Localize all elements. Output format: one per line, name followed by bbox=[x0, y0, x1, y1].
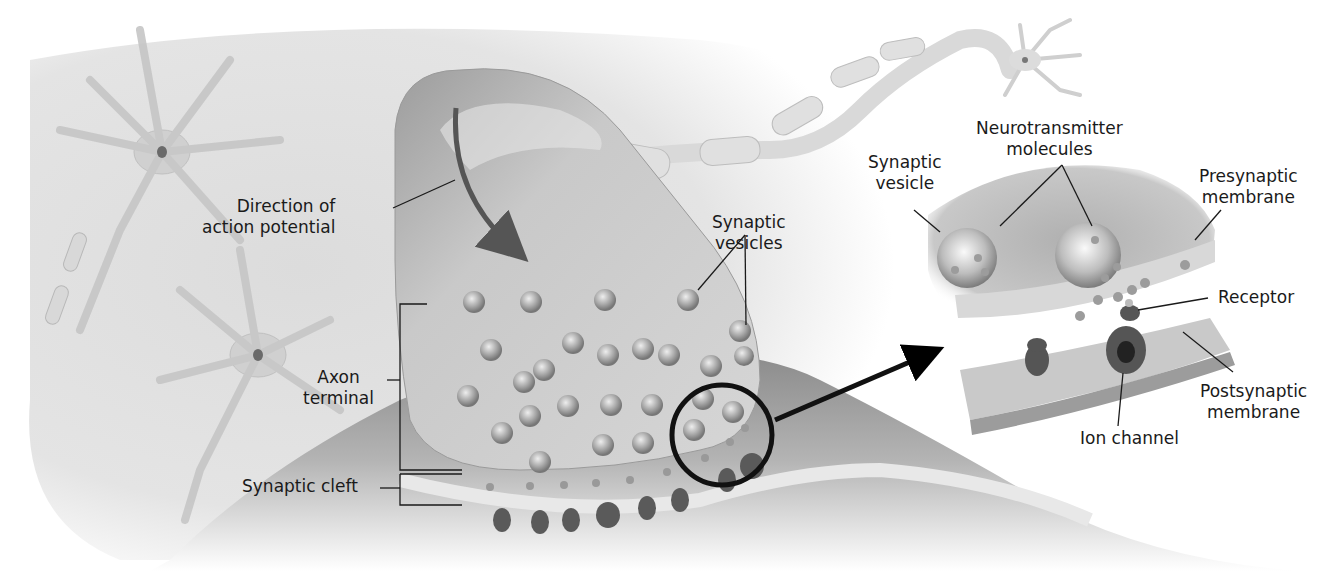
label-ion-channel: Ion channel bbox=[1080, 428, 1179, 449]
label-axon-terminal: Axon terminal bbox=[303, 367, 374, 409]
label-neurotransmitter-molecules: Neurotransmitter molecules bbox=[976, 118, 1123, 160]
label-synaptic-cleft: Synaptic cleft bbox=[242, 476, 358, 497]
label-synaptic-vesicles: Synaptic vesicles bbox=[712, 212, 786, 254]
label-synaptic-vesicle: Synaptic vesicle bbox=[868, 152, 942, 194]
label-receptor: Receptor bbox=[1218, 287, 1294, 308]
synapse-diagram: Direction of action potential Axon termi… bbox=[0, 0, 1344, 571]
label-postsynaptic-membrane: Postsynaptic membrane bbox=[1200, 381, 1307, 423]
inset-vesicle-1 bbox=[937, 228, 997, 288]
synapse-illustration bbox=[0, 0, 1344, 571]
label-direction-of-action-potential: Direction of action potential bbox=[202, 196, 335, 238]
label-presynaptic-membrane: Presynaptic membrane bbox=[1199, 166, 1298, 208]
inset-vesicle-2 bbox=[1055, 222, 1121, 288]
